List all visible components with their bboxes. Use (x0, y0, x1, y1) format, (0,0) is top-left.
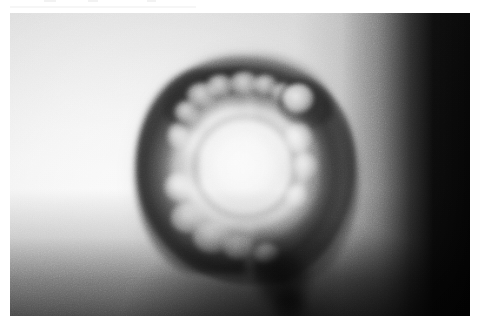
bottom-protrusion-tip (273, 289, 307, 316)
bright-lobe (293, 153, 317, 179)
central-core (205, 127, 287, 209)
upper-right-nodule (283, 84, 314, 113)
bright-lobe (168, 123, 188, 149)
scan-artifact-mark (147, 0, 156, 2)
bright-lobe (207, 75, 233, 96)
scan-artifact-mark (44, 0, 56, 2)
bright-lobe (285, 123, 311, 153)
bright-lobe (285, 185, 307, 207)
bright-lobe (175, 101, 199, 123)
scan-artifact-mark (88, 0, 98, 2)
bright-lobe (165, 173, 191, 201)
specimen (135, 53, 360, 293)
bright-lobe (223, 235, 253, 259)
scan-artifact-strip (10, 6, 196, 8)
figure-page (0, 0, 477, 332)
radiograph-photo (10, 13, 470, 316)
